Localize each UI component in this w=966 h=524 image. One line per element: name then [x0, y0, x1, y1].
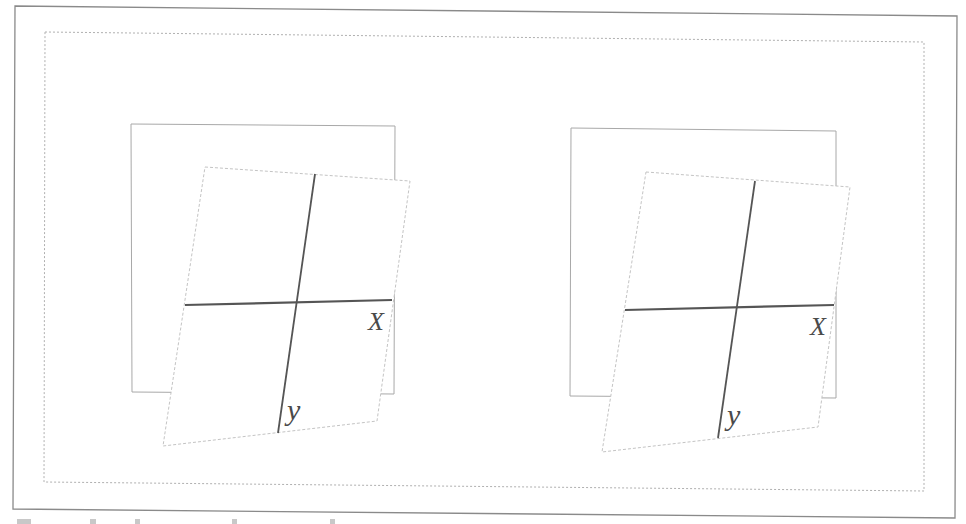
left-y-axis-label: y [284, 393, 301, 426]
caption-glyph-stub [17, 519, 31, 524]
right-panel: X y [570, 128, 850, 452]
right-x-axis-label: X [809, 312, 827, 341]
figure-diagram: X y X y [0, 0, 966, 524]
left-panel: X y [131, 124, 410, 446]
right-y-axis-label: y [724, 398, 741, 431]
caption-glyph-stub [232, 519, 237, 524]
caption-glyph-stub [90, 519, 96, 524]
caption-glyph-stub [135, 519, 140, 524]
caption-glyph-stub [330, 519, 335, 524]
left-x-axis-label: X [367, 307, 385, 336]
